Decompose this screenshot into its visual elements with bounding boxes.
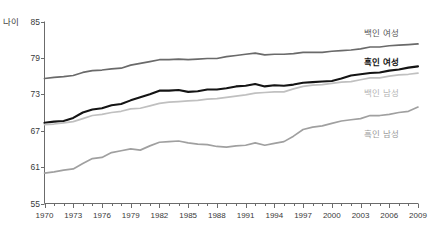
x-axis-tick-label: 1997 <box>288 211 318 220</box>
x-axis-tick-label: 1991 <box>231 211 261 220</box>
x-axis-tick-label: 2003 <box>346 211 376 220</box>
y-axis-tick-label: 55 <box>14 199 40 209</box>
series-label-white-women: 백인 여성 <box>364 26 399 38</box>
series-label-black-women: 흑인 여성 <box>364 55 399 67</box>
x-axis-ticks <box>46 204 419 209</box>
x-axis-tick-label: 1970 <box>30 211 60 220</box>
x-axis-tick-label: 1976 <box>87 211 117 220</box>
series-line-2 <box>45 73 419 125</box>
y-axis-tick-label: 61 <box>14 162 40 172</box>
y-axis-tick-label: 79 <box>14 53 40 63</box>
x-axis-tick-label: 1988 <box>202 211 232 220</box>
x-axis-tick-label: 2006 <box>374 211 404 220</box>
x-axis-tick-label: 1973 <box>58 211 88 220</box>
series-line-3 <box>45 107 419 173</box>
x-axis-tick-label: 1994 <box>259 211 289 220</box>
series-label-black-men: 흑인 남성 <box>364 127 399 139</box>
life-expectancy-line-chart: 나이 857973676155 197019731976197919821985… <box>0 0 438 232</box>
y-axis-tick-label: 85 <box>14 17 40 27</box>
x-axis-tick-label: 2000 <box>317 211 347 220</box>
chart-series-lines <box>45 44 419 173</box>
series-label-white-men: 백인 남성 <box>364 86 399 98</box>
y-axis-tick-label: 67 <box>14 126 40 136</box>
y-axis-ticks <box>41 23 45 205</box>
x-axis-tick-label: 1979 <box>116 211 146 220</box>
y-axis-tick-label: 73 <box>14 89 40 99</box>
x-axis-tick-label: 2009 <box>403 211 433 220</box>
x-axis-tick-label: 1982 <box>144 211 174 220</box>
x-axis-tick-label: 1985 <box>173 211 203 220</box>
